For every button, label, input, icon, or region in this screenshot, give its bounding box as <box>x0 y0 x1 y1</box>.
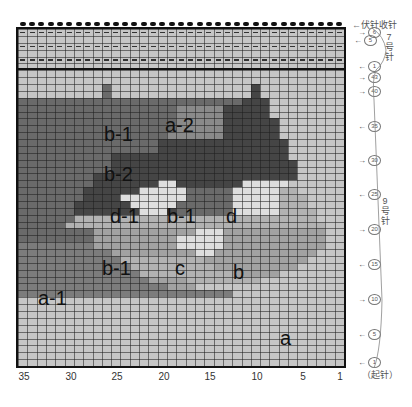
needle-size-7-label: 7号针 <box>384 32 394 62</box>
needle-size-9-label: 9号针 <box>380 196 390 226</box>
needle-section-brackets <box>0 0 412 407</box>
